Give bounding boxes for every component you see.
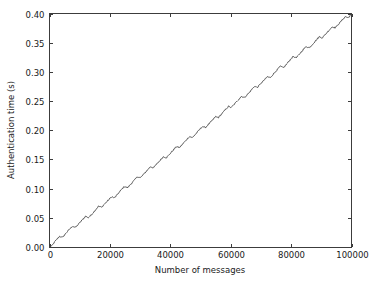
chart-svg: 020000400006000080000100000 0.000.050.10… bbox=[0, 0, 378, 287]
tick-label: 40000 bbox=[157, 250, 184, 260]
tick-label: 0.30 bbox=[26, 68, 45, 78]
y-axis-tick-labels: 0.000.050.100.150.200.250.300.350.40 bbox=[26, 10, 45, 253]
tick-label: 0.40 bbox=[26, 10, 45, 20]
tick-label: 0.10 bbox=[26, 185, 45, 195]
x-axis-title: Number of messages bbox=[155, 265, 246, 275]
tick-label: 0.35 bbox=[26, 39, 45, 49]
tick-label: 0 bbox=[48, 250, 53, 260]
tick-label: 0.05 bbox=[26, 214, 45, 224]
chart-figure: 020000400006000080000100000 0.000.050.10… bbox=[0, 0, 378, 287]
tick-label: 0.20 bbox=[26, 126, 45, 136]
tick-label: 20000 bbox=[97, 250, 124, 260]
tick-label: 0.25 bbox=[26, 97, 45, 107]
tick-label: 0.00 bbox=[26, 243, 45, 253]
y-axis-title: Authentication time (s) bbox=[6, 81, 16, 179]
tick-label: 0.15 bbox=[26, 155, 45, 165]
tick-label: 80000 bbox=[278, 250, 305, 260]
tick-label: 60000 bbox=[218, 250, 245, 260]
tick-label: 100000 bbox=[336, 250, 368, 260]
figure-background bbox=[0, 0, 378, 287]
